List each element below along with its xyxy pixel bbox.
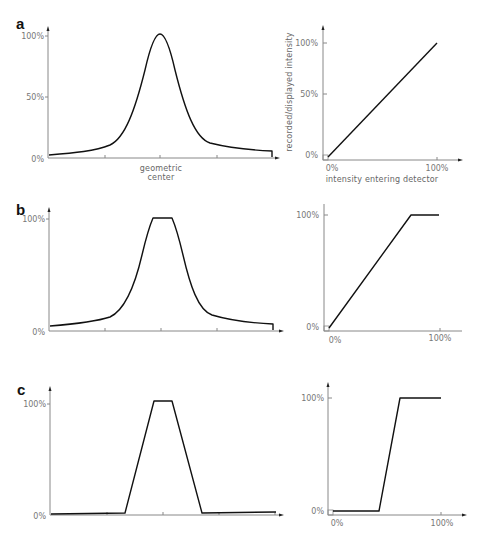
profile-curve bbox=[49, 34, 272, 157]
x-tick-100: 100% bbox=[426, 164, 449, 173]
y-tick-100: 100% bbox=[296, 211, 319, 220]
y-tick-0: 0% bbox=[311, 507, 324, 516]
chart-b-left: 100% 0% bbox=[22, 207, 284, 337]
figure: a 100% 50% 0% geometric center recorded/… bbox=[0, 0, 478, 541]
x-axis-arrow-icon bbox=[275, 157, 280, 160]
y-tick-0: 0% bbox=[32, 328, 45, 337]
y-axis-arrow-icon bbox=[322, 25, 325, 30]
x-tick-0: 0% bbox=[329, 336, 342, 345]
response-line bbox=[328, 43, 437, 157]
y-tick-50: 50% bbox=[300, 90, 318, 99]
y-tick-0: 0% bbox=[33, 512, 46, 521]
chart-b-right: 100% 0% 0% 100% bbox=[296, 204, 462, 345]
y-tick-0: 0% bbox=[31, 155, 44, 164]
x-axis-arrow-icon bbox=[279, 330, 284, 333]
x-label-geometric: geometric bbox=[140, 164, 182, 173]
y-tick-0: 0% bbox=[305, 151, 318, 160]
y-axis-arrow-icon bbox=[327, 382, 330, 387]
x-label-center: center bbox=[148, 173, 175, 182]
y-axis-title: recorded/displayed intensity bbox=[285, 32, 294, 152]
panel-b: b 100% 0% 100% 0% 0% 100% bbox=[16, 201, 462, 345]
x-tick-0: 0% bbox=[326, 164, 339, 173]
y-axis-arrow-icon bbox=[49, 386, 52, 391]
chart-c-left: 100% 0% bbox=[23, 386, 284, 521]
x-axis-arrow-icon bbox=[458, 159, 463, 162]
x-tick-100: 100% bbox=[429, 334, 452, 343]
trapezoid-profile bbox=[51, 401, 276, 514]
panel-c: c 100% 0% 100% 0% 0% 100% bbox=[17, 381, 467, 528]
x-axis-arrow-icon bbox=[462, 514, 467, 517]
y-tick-0: 0% bbox=[306, 323, 319, 332]
y-tick-100: 100% bbox=[22, 215, 45, 224]
panel-a: a 100% 50% 0% geometric center recorded/… bbox=[16, 15, 463, 184]
panel-letter-a: a bbox=[16, 15, 25, 32]
saturating-response-line bbox=[329, 215, 439, 328]
x-tick-100: 100% bbox=[431, 519, 454, 528]
y-tick-100: 100% bbox=[301, 394, 324, 403]
chart-c-right: 100% 0% 0% 100% bbox=[301, 382, 467, 528]
x-tick-0: 0% bbox=[331, 519, 344, 528]
y-tick-100: 100% bbox=[295, 39, 318, 48]
y-axis-arrow-icon bbox=[48, 207, 51, 212]
threshold-response-line bbox=[333, 398, 441, 511]
y-tick-100: 100% bbox=[21, 32, 44, 41]
x-axis-arrow-icon bbox=[279, 514, 284, 517]
chart-a-left: 100% 50% 0% geometric center bbox=[21, 26, 280, 182]
clipped-profile-curve bbox=[50, 218, 273, 330]
y-axis-arrow-icon bbox=[47, 26, 50, 31]
chart-a-right: recorded/displayed intensity 100% 50% 0%… bbox=[285, 25, 463, 184]
panel-letter-c: c bbox=[17, 381, 25, 398]
y-tick-50: 50% bbox=[26, 93, 44, 102]
x-axis-title: intensity entering detector bbox=[326, 175, 439, 184]
y-tick-100: 100% bbox=[23, 400, 46, 409]
